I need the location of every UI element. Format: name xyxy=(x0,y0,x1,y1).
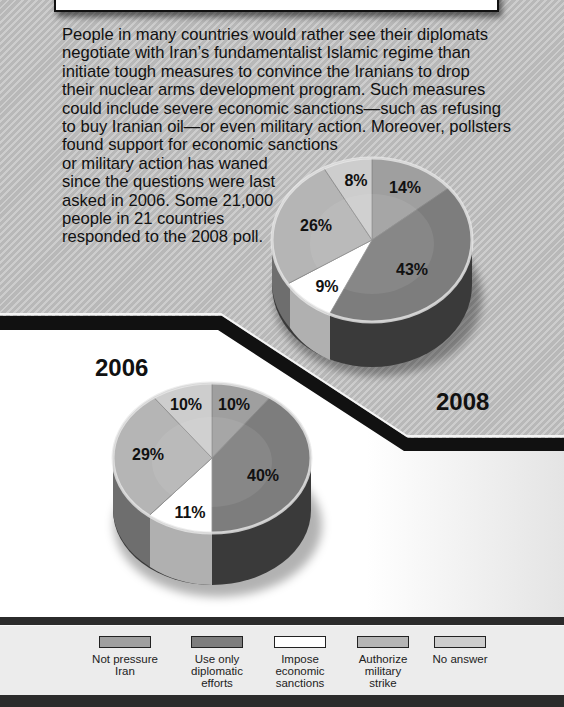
legend-label: sanctions xyxy=(255,677,345,689)
legend-body: Not pressure Iran Use only diplomatic ef… xyxy=(0,625,564,695)
legend-label: Iran xyxy=(80,665,170,677)
legend-item-diplomatic: Use only diplomatic efforts xyxy=(172,636,262,689)
pie-2006-label-diplomatic: 40% xyxy=(247,467,279,485)
pie-2006-label-not-pressure: 10% xyxy=(218,396,250,414)
pie-2008-label-military: 26% xyxy=(300,217,332,235)
legend-item-no-answer: No answer xyxy=(415,636,505,665)
pie-2006-label-military: 29% xyxy=(132,446,164,464)
legend-swatch xyxy=(274,636,326,648)
legend-swatch xyxy=(191,636,243,648)
legend: Not pressure Iran Use only diplomatic ef… xyxy=(0,617,564,707)
legend-label: efforts xyxy=(172,677,262,689)
legend-item-not-pressure: Not pressure Iran xyxy=(80,636,170,677)
pie-2008-label-no-answer: 8% xyxy=(344,172,367,190)
pie-2008-label-not-pressure: 14% xyxy=(389,179,421,197)
legend-label: economic xyxy=(255,665,345,677)
pie-2008-label-diplomatic: 43% xyxy=(396,261,428,279)
year-label-2006: 2006 xyxy=(95,354,148,382)
legend-label: Not pressure xyxy=(80,653,170,665)
legend-swatch xyxy=(99,636,151,648)
legend-label: military xyxy=(338,665,428,677)
legend-item-sanctions: Impose economic sanctions xyxy=(255,636,345,689)
legend-label: Impose xyxy=(255,653,345,665)
legend-label: strike xyxy=(338,677,428,689)
year-label-2008: 2008 xyxy=(436,388,489,416)
legend-label: diplomatic xyxy=(172,665,262,677)
legend-label: No answer xyxy=(415,653,505,665)
legend-swatch xyxy=(434,636,486,648)
pie-chart-2006 xyxy=(0,0,564,620)
pie-2006-label-sanctions: 11% xyxy=(174,504,205,522)
legend-swatch xyxy=(357,636,409,648)
pie-2006-label-no-answer: 10% xyxy=(170,396,202,414)
legend-label: Use only xyxy=(172,653,262,665)
pie-2008-label-sanctions: 9% xyxy=(315,278,338,296)
